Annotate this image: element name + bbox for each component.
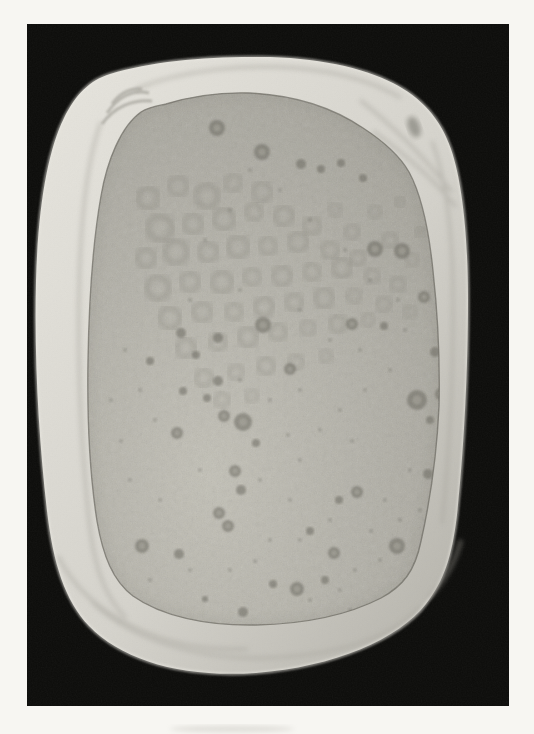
specimen-photo-canvas (0, 0, 534, 734)
specimen-photograph (0, 0, 534, 734)
bleed-through-smudge (170, 726, 294, 733)
scanned-page (0, 0, 534, 734)
film-grain-overlay (27, 24, 509, 706)
